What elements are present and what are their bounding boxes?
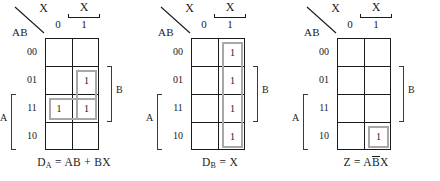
corner-column-variable: X bbox=[331, 1, 340, 16]
kmap-grid: 1 1 1 1 bbox=[191, 38, 245, 150]
cell-r1-c1[interactable] bbox=[365, 67, 391, 95]
bracket-stem bbox=[111, 66, 112, 122]
bracket-stem bbox=[403, 66, 404, 122]
row-label-11: 11 bbox=[167, 94, 189, 122]
cell-r0-c0[interactable] bbox=[46, 39, 72, 67]
row-label-01: 01 bbox=[167, 66, 189, 94]
row-label-11: 11 bbox=[21, 94, 43, 122]
cell-r3-c0[interactable] bbox=[46, 123, 72, 151]
kmap-z: X AB X 0 1 00 01 11 10 A B bbox=[292, 0, 440, 181]
bracket-stem bbox=[11, 94, 12, 150]
column-header-1: 1 bbox=[363, 18, 389, 30]
kmap-caption: DA = AB + BX bbox=[0, 156, 148, 168]
cell-r0-c0[interactable] bbox=[338, 39, 364, 67]
kmap-header: X AB X 0 1 bbox=[146, 0, 294, 38]
bracket-b-label: B bbox=[262, 84, 269, 95]
caption-lhs: Z bbox=[343, 156, 350, 168]
bracket-a: A bbox=[157, 94, 164, 150]
kmap-figure: X AB X 0 1 00 01 11 10 A B bbox=[0, 0, 440, 181]
cell-r0-c1[interactable] bbox=[365, 39, 391, 67]
bracket-b: B bbox=[105, 66, 112, 122]
column-header-0: 0 bbox=[191, 18, 217, 30]
bracket-a: A bbox=[11, 94, 18, 150]
corner-column-variable: X bbox=[39, 1, 48, 16]
bracket-a-label: A bbox=[292, 112, 299, 123]
corner-row-variable: AB bbox=[304, 26, 320, 38]
bracket-b-label: B bbox=[408, 84, 415, 95]
cell-r0-c1[interactable] bbox=[73, 39, 99, 67]
cell-r2-c1[interactable] bbox=[365, 95, 391, 123]
caption-eq: = bbox=[52, 156, 65, 168]
caption-rhs: AB + BX bbox=[64, 156, 110, 168]
cell-r2-c0[interactable] bbox=[338, 95, 364, 123]
row-label-01: 01 bbox=[21, 66, 43, 94]
column-header-0: 0 bbox=[45, 18, 71, 30]
cell-r3-c1[interactable] bbox=[73, 123, 99, 151]
caption-lhs: D bbox=[37, 156, 46, 168]
kmap-grid: 1 1 1 bbox=[45, 38, 99, 150]
kmap-grid: 1 bbox=[337, 38, 391, 150]
bracket-b-label: B bbox=[116, 84, 123, 95]
caption-subscript: B bbox=[211, 161, 217, 170]
bracket-arm-bottom bbox=[107, 121, 112, 122]
bracket-stem bbox=[157, 94, 158, 150]
column-group-bracket: X bbox=[68, 1, 100, 19]
kmap-da: X AB X 0 1 00 01 11 10 A B bbox=[0, 0, 148, 181]
corner-row-variable: AB bbox=[158, 26, 174, 38]
column-header-0: 0 bbox=[337, 18, 363, 30]
group-abx bbox=[368, 126, 389, 148]
column-group-label: X bbox=[68, 0, 100, 15]
cell-r3-c0[interactable] bbox=[192, 123, 218, 151]
bracket-tick-right bbox=[99, 14, 100, 18]
bracket-b: B bbox=[251, 66, 258, 122]
cell-r1-c0[interactable] bbox=[192, 67, 218, 95]
bracket-tick-right bbox=[391, 14, 392, 18]
column-group-bracket: X bbox=[214, 1, 246, 19]
cell-r0-c0[interactable] bbox=[192, 39, 218, 67]
cell-r1-c0[interactable] bbox=[46, 67, 72, 95]
bracket-tick-right bbox=[245, 14, 246, 18]
column-group-label: X bbox=[214, 0, 246, 15]
corner-row-variable: AB bbox=[12, 26, 28, 38]
kmap-header: X AB X 0 1 bbox=[0, 0, 148, 38]
bracket-stem bbox=[257, 66, 258, 122]
bracket-arm-top bbox=[399, 66, 404, 67]
kmap-db: X AB X 0 1 00 01 11 10 A B bbox=[146, 0, 294, 181]
row-label-11: 11 bbox=[313, 94, 335, 122]
group-bx bbox=[76, 70, 97, 120]
bracket-arm-top bbox=[157, 94, 162, 95]
caption-rhs-post: X bbox=[380, 156, 389, 168]
corner-header-cell: X AB bbox=[160, 2, 192, 36]
bracket-a-label: A bbox=[146, 112, 153, 123]
cell-r1-c0[interactable] bbox=[338, 67, 364, 95]
caption-lhs: D bbox=[202, 156, 211, 168]
cell-r2-c0[interactable] bbox=[192, 95, 218, 123]
row-label-00: 00 bbox=[313, 38, 335, 66]
caption-rhs-pre: A bbox=[363, 156, 372, 168]
caption-rhs-complemented: B bbox=[372, 156, 380, 169]
column-group-bracket: X bbox=[360, 1, 392, 19]
bracket-b: B bbox=[397, 66, 404, 122]
bracket-a-label: A bbox=[0, 112, 7, 123]
kmap-caption: DB = X bbox=[146, 156, 294, 168]
caption-subscript: A bbox=[46, 161, 52, 170]
bracket-arm-bottom bbox=[399, 121, 404, 122]
column-header-1: 1 bbox=[217, 18, 243, 30]
bracket-stem bbox=[303, 94, 304, 150]
bracket-arm-bottom bbox=[11, 149, 16, 150]
row-label-10: 10 bbox=[21, 122, 43, 150]
group-x bbox=[222, 42, 243, 148]
row-label-00: 00 bbox=[167, 38, 189, 66]
bracket-arm-bottom bbox=[253, 121, 258, 122]
caption-eq: = bbox=[351, 156, 364, 168]
kmap-header: X AB X 0 1 bbox=[292, 0, 440, 38]
caption-rhs: X bbox=[229, 156, 238, 168]
bracket-arm-top bbox=[107, 66, 112, 67]
cell-r3-c0[interactable] bbox=[338, 123, 364, 151]
bracket-a: A bbox=[303, 94, 310, 150]
column-header-1: 1 bbox=[71, 18, 97, 30]
row-label-00: 00 bbox=[21, 38, 43, 66]
column-group-label: X bbox=[360, 0, 392, 15]
corner-column-variable: X bbox=[185, 1, 194, 16]
row-label-01: 01 bbox=[313, 66, 335, 94]
